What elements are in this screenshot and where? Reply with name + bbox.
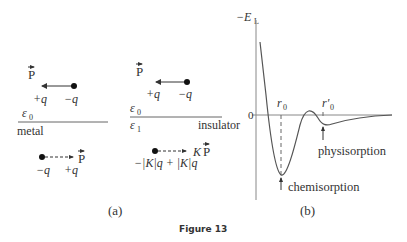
panel-a-insulator: P +q −q ε 0 ε 1 insulator K P −|K|q + |K… bbox=[130, 64, 240, 170]
p-vector-label: P bbox=[203, 144, 210, 159]
r0-sub: 0 bbox=[283, 103, 287, 112]
image-charges-label: −|K|q + |K|q bbox=[134, 156, 197, 170]
charge-plus: +q bbox=[64, 163, 78, 177]
p-vector-label: P bbox=[136, 64, 143, 79]
r0-prime-sub: 0 bbox=[330, 103, 334, 112]
epsilon1-label: ε bbox=[130, 118, 135, 132]
charge-dot-icon bbox=[39, 154, 45, 160]
epsilon0-label: ε bbox=[130, 101, 135, 115]
chemisorption-label: chemisorption bbox=[288, 180, 360, 194]
physisorption-label: physisorption bbox=[318, 144, 387, 158]
charge-minus: −q bbox=[178, 87, 192, 101]
p-vector-label: P bbox=[78, 151, 85, 166]
epsilon1-sub: 1 bbox=[137, 125, 141, 134]
charge-plus: +q bbox=[33, 92, 47, 106]
charge-minus: −q bbox=[36, 163, 50, 177]
metal-label: metal bbox=[17, 124, 44, 138]
y-axis-label: −E bbox=[236, 10, 252, 24]
zero-label: 0 bbox=[248, 109, 254, 121]
p-vector-label: P bbox=[28, 67, 35, 82]
charge-dot-icon bbox=[71, 83, 77, 89]
epsilon0-sub: 0 bbox=[137, 108, 141, 117]
panel-a-label: (a) bbox=[108, 203, 122, 218]
charge-dot-icon bbox=[152, 148, 158, 154]
insulator-image-dipole: K P −|K|q + |K|q bbox=[134, 144, 210, 170]
insulator-real-dipole: P +q −q bbox=[136, 64, 192, 101]
epsilon-sub: 0 bbox=[29, 113, 33, 122]
metal-image-dipole: P −q +q bbox=[36, 151, 85, 177]
panel-b-label: (b) bbox=[300, 203, 315, 218]
charge-plus: +q bbox=[146, 87, 160, 101]
charge-dot-icon bbox=[184, 79, 190, 85]
r0-label: r bbox=[277, 96, 282, 110]
figure-canvas: P +q −q ε 0 metal P −q +q P +q − bbox=[0, 0, 407, 242]
figure-caption: Figure 13 bbox=[179, 224, 227, 234]
panel-b-graph: −E L 0 r 0 r′ 0 physisorption chemisorpt… bbox=[236, 10, 392, 200]
metal-real-dipole: P +q −q bbox=[28, 67, 78, 106]
charge-minus: −q bbox=[64, 92, 78, 106]
insulator-label: insulator bbox=[198, 118, 240, 132]
epsilon-label: ε bbox=[22, 106, 27, 120]
panel-a-metal: P +q −q ε 0 metal P −q +q bbox=[17, 67, 108, 177]
r0-prime-label: r′ bbox=[322, 96, 330, 110]
